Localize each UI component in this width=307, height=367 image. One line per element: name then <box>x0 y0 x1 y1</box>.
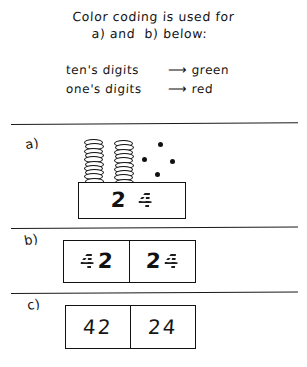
legend-color-green: green <box>191 63 229 77</box>
answer-a-ones-digit: 4 <box>137 190 153 211</box>
ones-dot-group <box>140 142 182 182</box>
section-label-b: b) <box>23 231 40 248</box>
answer-box-c-left[interactable]: 42 <box>65 305 131 349</box>
divider-above-section-b <box>11 226 298 229</box>
instruction-line-1: Color coding is used for <box>0 8 307 25</box>
legend-color-red: red <box>191 82 213 96</box>
legend-term-ones: one's digits <box>66 82 169 96</box>
answer-box-b-right[interactable]: 2 4 <box>129 240 196 283</box>
answer-a-tens-digit: 2 <box>111 190 127 211</box>
answer-box-c-right[interactable]: 24 <box>130 305 196 349</box>
worksheet-page: Color coding is used for a) and b) below… <box>0 0 307 367</box>
section-label-a: a) <box>24 135 41 152</box>
ones-dot <box>142 157 147 162</box>
legend-row-tens: ten's digits ⟶ green <box>66 60 230 79</box>
section-label-c: c) <box>26 296 42 313</box>
divider-above-section-c <box>11 291 298 294</box>
answer-box-b-left[interactable]: 4 2 <box>63 240 130 283</box>
ones-dot <box>158 142 163 147</box>
answer-b-right-digits: 2 4 <box>146 251 178 272</box>
arrow-right-icon: ⟶ <box>168 62 187 77</box>
divider-above-section-a <box>11 122 298 125</box>
answer-b-left-digits: 4 2 <box>80 251 112 272</box>
answer-c-left-value: 42 <box>83 317 114 337</box>
legend-term-tens: ten's digits <box>66 63 169 77</box>
color-coding-legend: ten's digits ⟶ green one's digits ⟶ red <box>66 60 229 98</box>
instruction-heading: Color coding is used for a) and b) below… <box>0 8 307 42</box>
legend-row-ones: one's digits ⟶ red <box>66 79 230 98</box>
answer-b-left-ones-digit: 4 <box>80 251 96 272</box>
ones-dot <box>155 172 160 177</box>
answer-b-right-tens-digit: 2 <box>146 251 162 272</box>
answer-b-right-ones-digit: 4 <box>163 251 179 272</box>
tens-coin-stack-2 <box>114 140 134 187</box>
answer-b-left-tens-digit: 2 <box>97 251 113 272</box>
instruction-line-2: a) and b) below: <box>0 25 303 42</box>
arrow-right-icon: ⟶ <box>168 81 187 96</box>
ones-dot <box>170 159 175 164</box>
answer-box-a[interactable]: 2 4 <box>78 182 186 219</box>
tens-coin-stack-1 <box>84 139 104 186</box>
answer-c-right-value: 24 <box>148 317 179 337</box>
